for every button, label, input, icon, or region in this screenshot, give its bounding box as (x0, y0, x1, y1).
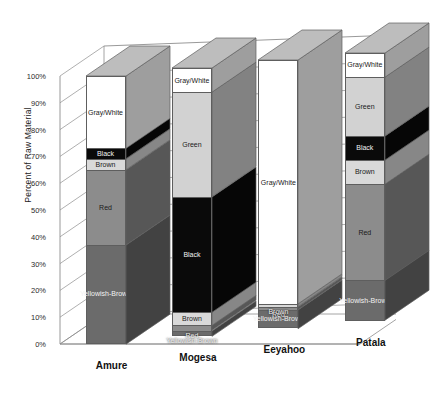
bar-amure[interactable]: Yellowish-BrownRedBrownBlackGray/White (86, 76, 126, 344)
segment-patala-brown[interactable]: Brown (345, 160, 385, 184)
segment-face: Black (172, 197, 212, 312)
y-tick-30: 30% (12, 259, 46, 268)
segment-mogesa-black[interactable]: Black (172, 197, 212, 312)
segment-amure-gray-white[interactable]: Gray/White (86, 76, 126, 148)
segment-label: Brown (96, 161, 116, 169)
bar-top-face (86, 46, 126, 76)
segment-label: Yellowish-Brown (253, 315, 304, 323)
segment-label: Black (356, 144, 373, 152)
segment-patala-green[interactable]: Green (345, 77, 385, 136)
segment-eeyahoo-gray-white[interactable]: Gray/White (258, 60, 298, 304)
segment-face: Red (345, 184, 385, 280)
segment-face: Brown (258, 304, 298, 307)
segment-face: Red (258, 307, 298, 310)
y-tick-100: 100% (12, 72, 46, 81)
segment-label: Black (183, 251, 200, 259)
y-tick-20: 20% (12, 286, 46, 295)
y-tick-90: 90% (12, 98, 46, 107)
segment-mogesa-yellowish-brown[interactable]: Yellowish-Brown (172, 331, 212, 336)
y-axis-tick-labels: 0%10%20%30%40%50%60%70%80%90%100% (8, 0, 46, 411)
bar-patala[interactable]: Yellowish-BrownRedBrownBlackGreenGray/Wh… (345, 53, 385, 321)
segment-label: Green (355, 103, 374, 111)
segment-label: Yellowish-Brown (80, 290, 131, 298)
y-tick-60: 60% (12, 179, 46, 188)
segment-label: Gray/White (347, 61, 382, 69)
y-tick-40: 40% (12, 232, 46, 241)
segment-label: Green (182, 141, 201, 149)
bar-top-face (172, 38, 212, 68)
segment-label: Gray/White (88, 109, 123, 117)
category-label-eeyahoo: Eeyahoo (264, 344, 306, 355)
segment-face: Black (86, 148, 126, 159)
y-tick-0: 0% (12, 340, 46, 349)
segment-label: Brown (182, 315, 202, 323)
segment-face: Gray/White (258, 60, 298, 304)
segment-face: Red (172, 325, 212, 330)
segment-patala-yellowish-brown[interactable]: Yellowish-Brown (345, 280, 385, 320)
y-tick-50: 50% (12, 206, 46, 215)
segment-face: Red (86, 170, 126, 245)
segment-patala-red[interactable]: Red (345, 184, 385, 280)
segment-label: Yellowish-Brown (339, 297, 390, 305)
segment-face: Yellowish-Brown (86, 245, 126, 344)
segment-face: Yellowish-Brown (258, 310, 298, 329)
segment-patala-black[interactable]: Black (345, 136, 385, 160)
category-label-amure: Amure (96, 360, 128, 371)
segment-label: Black (97, 150, 114, 158)
segment-face: Black (345, 136, 385, 160)
plot-area: Yellowish-BrownRedBrownBlackGray/WhiteYe… (46, 14, 396, 399)
bar-top-face (258, 30, 298, 60)
segment-face: Brown (86, 159, 126, 170)
segment-face: Gray/White (86, 76, 126, 148)
category-label-patala: Patala (356, 337, 385, 348)
segment-eeyahoo-yellowish-brown[interactable]: Yellowish-Brown (258, 310, 298, 329)
segment-mogesa-red[interactable]: Red (172, 325, 212, 330)
segment-label: Gray/White (261, 179, 296, 187)
segment-eeyahoo-red[interactable]: Red (258, 307, 298, 310)
category-label-mogesa: Mogesa (179, 352, 216, 363)
segment-eeyahoo-brown[interactable]: Brown (258, 304, 298, 307)
segment-face: Gray/White (172, 68, 212, 92)
segment-mogesa-brown[interactable]: Brown (172, 312, 212, 325)
bar-eeyahoo[interactable]: Yellowish-BrownRedBrownGray/White (258, 60, 298, 328)
segment-face: Yellowish-Brown (345, 280, 385, 320)
y-tick-70: 70% (12, 152, 46, 161)
segment-face: Brown (172, 312, 212, 325)
segment-label: Brown (355, 168, 375, 176)
segment-mogesa-gray-white[interactable]: Gray/White (172, 68, 212, 92)
segment-amure-red[interactable]: Red (86, 170, 126, 245)
segment-label: Red (358, 229, 371, 237)
y-tick-80: 80% (12, 125, 46, 134)
bar-top-face (345, 23, 385, 53)
y-tick-10: 10% (12, 313, 46, 322)
segment-face: Green (172, 92, 212, 197)
segment-label: Gray/White (174, 77, 209, 85)
segment-patala-gray-white[interactable]: Gray/White (345, 53, 385, 77)
segment-face: Brown (345, 160, 385, 184)
segment-mogesa-green[interactable]: Green (172, 92, 212, 197)
segment-amure-black[interactable]: Black (86, 148, 126, 159)
segment-face: Yellowish-Brown (172, 331, 212, 336)
segment-amure-yellowish-brown[interactable]: Yellowish-Brown (86, 245, 126, 344)
segment-face: Gray/White (345, 53, 385, 77)
segment-amure-brown[interactable]: Brown (86, 159, 126, 170)
segment-face: Green (345, 77, 385, 136)
segment-label: Red (99, 204, 112, 212)
bar-mogesa[interactable]: Yellowish-BrownRedBrownBlackGreenGray/Wh… (172, 68, 212, 336)
